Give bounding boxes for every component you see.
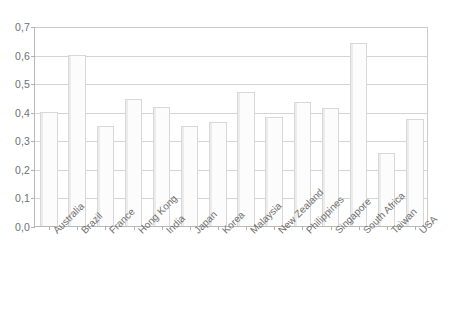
bar: [97, 126, 114, 226]
bar-shading: [351, 44, 353, 226]
y-axis-tick-label: 0,1: [15, 192, 30, 204]
x-axis-tick-labels: AustraliaBrazilFranceHong KongIndiaJapan…: [34, 228, 428, 317]
y-axis-tick-label: 0,6: [15, 50, 30, 62]
bar: [40, 112, 57, 226]
y-axis-tick-label: 0,2: [15, 164, 30, 176]
y-axis-tick-label: 0,4: [15, 107, 30, 119]
bar-shading: [41, 113, 43, 226]
y-axis-tick-label: 0,0: [15, 221, 30, 233]
y-axis-tick-label: 0,5: [15, 78, 30, 90]
y-axis-tick-label: 0,3: [15, 135, 30, 147]
plot-area: [34, 27, 428, 227]
bar-chart: 0,00,10,20,30,40,50,60,7 AustraliaBrazil…: [0, 0, 450, 317]
bar-shading: [238, 93, 240, 226]
bar-shading: [182, 127, 184, 226]
bar-shading: [69, 56, 71, 226]
bar: [181, 126, 198, 226]
bar: [237, 92, 254, 226]
bar-series: [35, 28, 427, 226]
y-axis-tick-label: 0,7: [15, 21, 30, 33]
y-axis-tick-labels: 0,00,10,20,30,40,50,60,7: [0, 0, 34, 317]
